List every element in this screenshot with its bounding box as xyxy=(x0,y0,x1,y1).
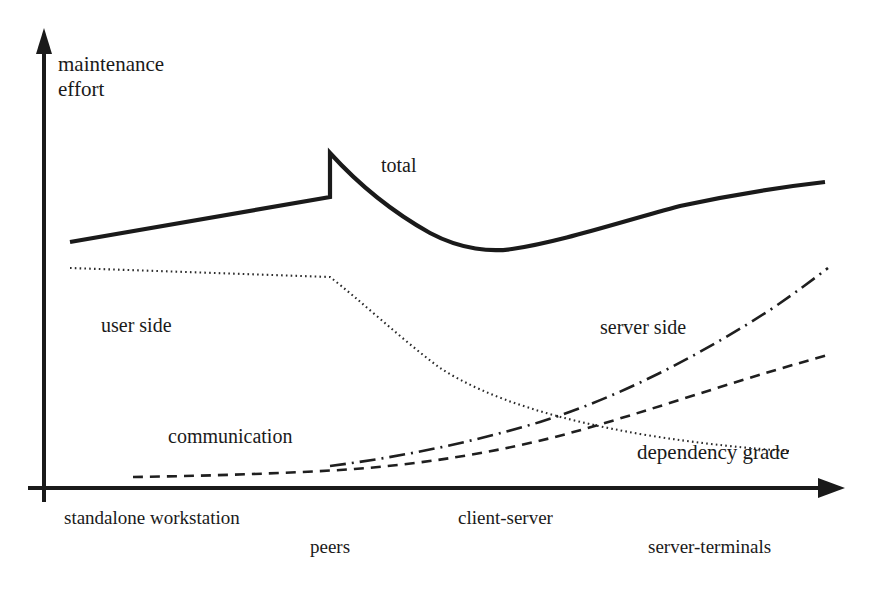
series-label-communication: communication xyxy=(168,425,292,449)
series-label-total: total xyxy=(381,154,417,178)
x-axis-arrowhead xyxy=(818,478,845,498)
series-line-total xyxy=(70,153,825,250)
x-tick-label-peers: peers xyxy=(310,536,350,558)
y-axis-arrowhead xyxy=(36,28,52,54)
chart-figure: maintenanceeffort dependency grade total… xyxy=(0,0,873,589)
series-line-user-side xyxy=(70,268,790,451)
x-tick-label-server-terminals: server-terminals xyxy=(648,536,771,558)
y-axis-title-line2: effort xyxy=(58,77,104,101)
y-axis-title: maintenanceeffort xyxy=(58,52,164,102)
series-label-user-side: user side xyxy=(101,314,172,338)
series-label-server-side: server side xyxy=(600,316,686,340)
x-tick-label-client-server: client-server xyxy=(458,507,553,529)
y-axis-title-line1: maintenance xyxy=(58,52,164,76)
x-tick-label-standalone-workstation: standalone workstation xyxy=(64,507,240,529)
x-axis-title: dependency grade xyxy=(637,440,789,465)
series-line-server-side xyxy=(330,268,828,466)
